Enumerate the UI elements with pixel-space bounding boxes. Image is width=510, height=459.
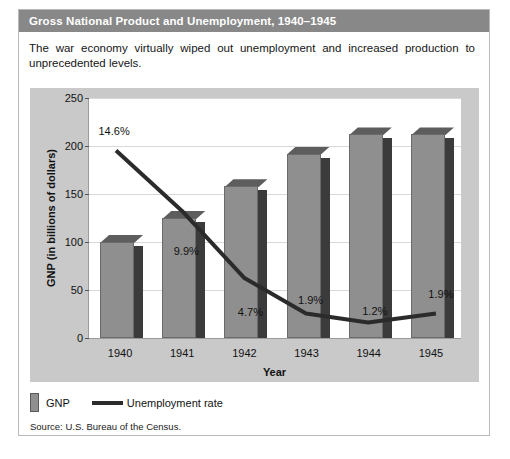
y-tick-label: 250	[65, 92, 89, 104]
y-tick-label: 50	[71, 284, 89, 296]
line-swatch-icon	[92, 401, 123, 405]
point-label-1945: 1.9%	[428, 288, 453, 300]
y-tick-label: 0	[77, 332, 89, 344]
unemployment-line	[116, 151, 436, 323]
x-tick-label-1945: 1945	[401, 347, 461, 359]
unemployment-line-series	[89, 98, 461, 338]
legend-label-gnp: GNP	[46, 397, 70, 409]
y-axis-label: GNP (in billions of dollars)	[44, 98, 58, 338]
x-tick-label-1940: 1940	[90, 347, 150, 359]
gridline	[89, 338, 461, 339]
y-tick-label: 100	[65, 236, 89, 248]
figure-container: Gross National Product and Unemployment,…	[18, 9, 490, 436]
figure-title: Gross National Product and Unemployment,…	[19, 10, 489, 32]
point-label-1941: 9.9%	[174, 245, 199, 257]
x-tick-label-1944: 1944	[339, 347, 399, 359]
y-tick-label: 200	[65, 140, 89, 152]
legend-label-unemployment: Unemployment rate	[127, 397, 223, 409]
point-label-1942: 4.7%	[238, 306, 263, 318]
point-label-1940: 14.6%	[98, 125, 129, 137]
x-tick-label-1941: 1941	[152, 347, 212, 359]
x-tick-label-1942: 1942	[214, 347, 274, 359]
chart-legend: GNP Unemployment rate	[30, 393, 223, 412]
point-label-1944: 1.2%	[362, 305, 387, 317]
plot-area: 050100150200250 14.6%9.9%4.7%1.9%1.2%1.9…	[88, 98, 461, 338]
gnp-swatch-icon	[30, 393, 39, 412]
x-axis-label: Year	[88, 366, 461, 378]
chart-panel: GNP (in billions of dollars) 05010015020…	[30, 88, 479, 382]
source-note: Source: U.S. Bureau of the Census.	[30, 421, 181, 432]
point-label-1943: 1.9%	[298, 294, 323, 306]
x-tick-label-1943: 1943	[277, 347, 337, 359]
figure-caption: The war economy virtually wiped out unem…	[19, 32, 489, 71]
y-tick-label: 150	[65, 188, 89, 200]
